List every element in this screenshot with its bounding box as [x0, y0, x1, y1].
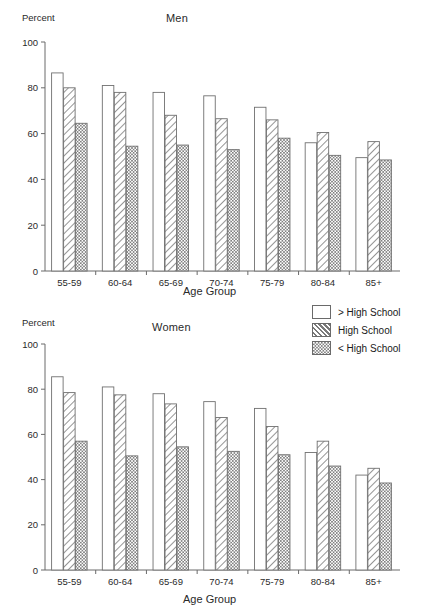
bar [52, 377, 64, 570]
bar [278, 455, 290, 570]
bar [177, 145, 189, 271]
bar [266, 120, 278, 271]
x-category-label: 55-59 [57, 277, 81, 288]
bar [102, 86, 114, 271]
legend-label-high-school: High School [338, 325, 392, 336]
men-x-axis-title: Age Group [183, 285, 236, 297]
x-category-label: 75-79 [260, 277, 284, 288]
x-category-label: 70-74 [209, 576, 233, 587]
y-tick-label: 40 [27, 474, 38, 485]
bar [368, 142, 380, 271]
bar [329, 466, 341, 570]
x-category-label: 85+ [366, 277, 383, 288]
chart-legend: > High School High School < High School [312, 303, 440, 357]
bar [266, 426, 278, 570]
legend-item-high-school: High School [312, 321, 440, 339]
x-category-label: 80-84 [311, 576, 335, 587]
bar [329, 155, 341, 271]
bar [305, 452, 317, 570]
x-category-label: 65-69 [159, 277, 183, 288]
legend-label-lt-high-school: < High School [338, 343, 401, 354]
y-tick-label: 40 [27, 174, 38, 185]
bar [177, 447, 189, 570]
legend-swatch-lt-high-school [312, 341, 331, 355]
bar [102, 387, 114, 570]
bar [216, 417, 228, 570]
x-category-label: 60-64 [108, 576, 132, 587]
y-tick-label: 0 [33, 266, 38, 277]
bar [317, 132, 329, 271]
x-category-label: 75-79 [260, 576, 284, 587]
bar [228, 451, 240, 570]
bar [216, 119, 228, 271]
y-tick-label: 100 [22, 37, 38, 48]
bar [165, 404, 177, 570]
y-tick-label: 20 [27, 519, 38, 530]
bar [204, 96, 216, 271]
bar [368, 468, 380, 570]
y-tick-label: 60 [27, 128, 38, 139]
x-category-label: 65-69 [159, 576, 183, 587]
x-category-label: 60-64 [108, 277, 132, 288]
legend-item-lt-high-school: < High School [312, 339, 440, 357]
bar [126, 456, 138, 570]
bar [356, 158, 368, 271]
y-tick-label: 80 [27, 384, 38, 395]
bar [76, 441, 88, 570]
bar [52, 73, 64, 271]
legend-swatch-high-school [312, 323, 331, 337]
bar [76, 123, 88, 271]
y-tick-label: 100 [22, 339, 38, 350]
y-tick-label: 80 [27, 82, 38, 93]
bar [153, 92, 165, 271]
women-x-axis-title: Age Group [183, 593, 236, 605]
bar [305, 143, 317, 271]
legend-swatch-gt-high-school [312, 305, 331, 319]
y-tick-label: 20 [27, 220, 38, 231]
bar [380, 160, 392, 271]
bar [114, 395, 126, 570]
bar [64, 393, 76, 570]
bar [228, 150, 240, 271]
bar [380, 483, 392, 570]
x-category-label: 85+ [366, 576, 383, 587]
bar [278, 138, 290, 271]
bar [64, 88, 76, 271]
bar [317, 441, 329, 570]
y-tick-label: 60 [27, 429, 38, 440]
x-category-label: 55-59 [57, 576, 81, 587]
bar [254, 408, 266, 570]
bar [254, 107, 266, 271]
men-plot-area: 02040608010055-5960-6465-6970-7475-7980-… [0, 0, 446, 290]
bar [114, 92, 126, 271]
bar [153, 394, 165, 570]
men-chart-panel: Percent Men 02040608010055-5960-6465-697… [0, 0, 446, 308]
bar [204, 402, 216, 570]
x-category-label: 80-84 [311, 277, 335, 288]
bar [356, 475, 368, 570]
legend-item-gt-high-school: > High School [312, 303, 440, 321]
y-tick-label: 0 [33, 565, 38, 576]
bar [126, 146, 138, 271]
bar [165, 115, 177, 271]
legend-label-gt-high-school: > High School [338, 307, 401, 318]
